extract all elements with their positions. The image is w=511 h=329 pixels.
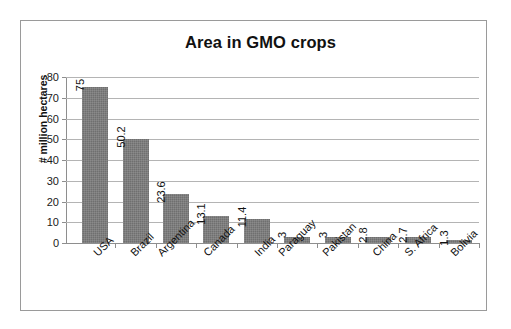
x-tick-mark	[398, 243, 399, 248]
y-tick-mark	[62, 222, 66, 223]
bar-value-text: 50.2	[115, 126, 127, 147]
chart-frame: Area in GMO crops # million hectares 010…	[20, 20, 487, 311]
bar: 50.2	[123, 139, 149, 243]
y-tick-label: 30	[47, 175, 59, 187]
y-tick-label: 0	[53, 237, 59, 249]
gridline	[66, 119, 479, 120]
y-tick-label: 80	[47, 71, 59, 83]
bar-value-label: 23.6	[164, 181, 176, 202]
y-tick-mark	[62, 119, 66, 120]
y-tick-label: 40	[47, 154, 59, 166]
x-tick-mark	[358, 243, 359, 248]
bar: 75	[82, 87, 108, 243]
bar-value-text: 13.1	[195, 203, 207, 224]
gridline	[66, 98, 479, 99]
bar-value-text: 75	[74, 79, 86, 91]
y-tick-mark	[62, 181, 66, 182]
bar-value-label: 2.8	[366, 228, 378, 243]
bar-value-label: 75	[83, 79, 95, 91]
bar-value-label: 11.4	[245, 207, 257, 228]
plot-area: 01020304050607080 7550.223.613.111.4332.…	[66, 77, 479, 243]
y-tick-label: 60	[47, 113, 59, 125]
gridline	[66, 77, 479, 78]
y-tick-label: 20	[47, 196, 59, 208]
bar-value-label: 50.2	[124, 126, 136, 147]
x-tick-mark	[196, 243, 197, 248]
x-tick-mark	[317, 243, 318, 248]
bar-value-text: 1.3	[438, 231, 450, 246]
y-tick-label: 10	[47, 216, 59, 228]
y-tick-label: 70	[47, 92, 59, 104]
x-tick-mark	[237, 243, 238, 248]
chart-title: Area in GMO crops	[21, 33, 486, 52]
bar-value-text: 11.4	[236, 207, 248, 228]
bar-value-text: 3	[276, 232, 288, 238]
bar-value-label: 13.1	[204, 203, 216, 224]
y-tick-mark	[62, 98, 66, 99]
bar-value-text: 3	[317, 232, 329, 238]
y-tick-mark	[62, 139, 66, 140]
y-tick-mark	[62, 77, 66, 78]
bar-value-text: 2.7	[397, 228, 409, 243]
y-tick-label: 50	[47, 133, 59, 145]
y-tick-mark	[62, 243, 66, 244]
bar-value-text: 2.8	[357, 228, 369, 243]
x-tick-mark	[479, 243, 480, 248]
y-tick-mark	[62, 202, 66, 203]
x-tick-mark	[115, 243, 116, 248]
y-tick-mark	[62, 160, 66, 161]
bar-value-text: 23.6	[155, 181, 167, 202]
